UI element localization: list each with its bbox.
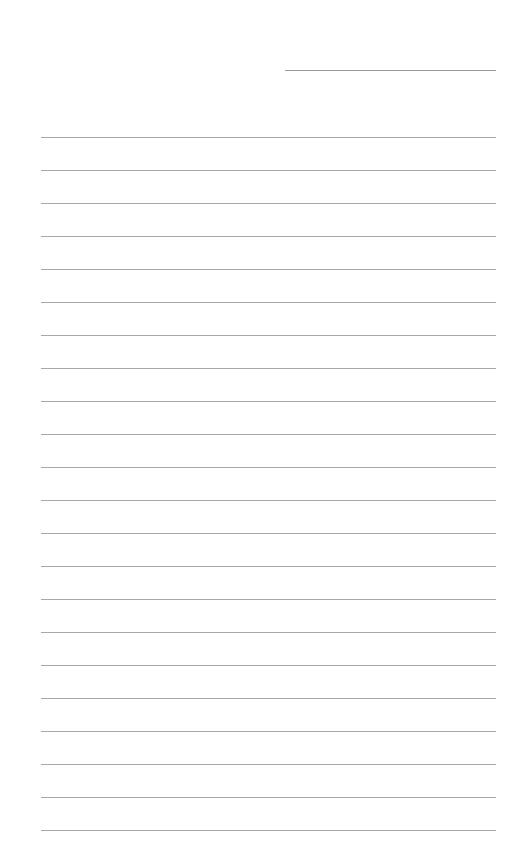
ruled-line	[41, 566, 496, 567]
ruled-line	[41, 632, 496, 633]
ruled-line	[41, 533, 496, 534]
ruled-line	[41, 401, 496, 402]
ruled-line	[41, 698, 496, 699]
ruled-line	[41, 764, 496, 765]
ruled-line	[41, 269, 496, 270]
ruled-line	[41, 731, 496, 732]
header-date-line	[285, 70, 496, 71]
ruled-line	[41, 665, 496, 666]
ruled-line	[41, 500, 496, 501]
ruled-line	[41, 137, 496, 138]
ruled-line	[41, 170, 496, 171]
lined-paper-page	[0, 0, 527, 861]
ruled-line	[41, 599, 496, 600]
ruled-line	[41, 434, 496, 435]
ruled-line	[41, 368, 496, 369]
ruled-line	[41, 467, 496, 468]
ruled-line	[41, 335, 496, 336]
ruled-line	[41, 236, 496, 237]
ruled-line	[41, 302, 496, 303]
ruled-line	[41, 830, 496, 831]
ruled-line	[41, 797, 496, 798]
ruled-line	[41, 203, 496, 204]
